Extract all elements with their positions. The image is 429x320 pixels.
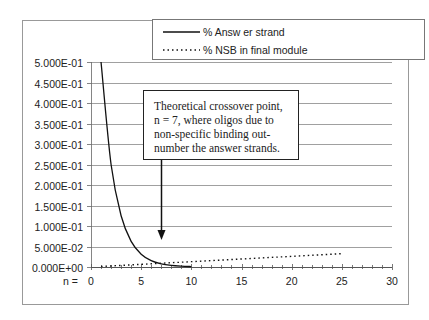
x-tick-label: 15: [236, 275, 248, 287]
x-tick-label: 25: [336, 275, 348, 287]
legend-label-nsb: % NSB in final module: [203, 44, 308, 56]
legend-label-answer: % Answ er strand: [203, 26, 285, 38]
y-tick-label: 2.000E-01: [35, 180, 84, 192]
y-tick-label: 4.500E-01: [35, 78, 84, 90]
y-tick-label: 1.500E-01: [35, 201, 84, 213]
y-tick-label: 2.500E-01: [35, 160, 84, 172]
y-tick-label: 1.000E-01: [35, 221, 84, 233]
annotation-line: non-specific binding out-: [154, 127, 292, 141]
y-tick-label: 3.500E-01: [35, 119, 84, 131]
x-tick-label: 5: [138, 275, 144, 287]
annotation-line: n = 7, where oligos due to: [154, 113, 292, 127]
y-tick-label: 5.000E-02: [35, 242, 84, 254]
y-tick-label: 4.000E-01: [35, 98, 84, 110]
x-tick-label: 20: [286, 275, 298, 287]
y-tick-label: 3.000E-01: [35, 139, 84, 151]
annotation-line: Theoretical crossover point,: [154, 99, 292, 113]
x-tick-label: 0: [88, 275, 94, 287]
y-tick-labels: 0.000E+005.000E-021.000E-011.500E-012.00…: [32, 57, 83, 274]
legend: % Answ er strand % NSB in final module: [153, 20, 425, 60]
y-tick-label: 0.000E+00: [32, 262, 83, 274]
chart: 0.000E+005.000E-021.000E-011.500E-012.00…: [0, 0, 429, 320]
annotation-line: number the answer strands.: [154, 141, 292, 155]
annotation-box: Theoretical crossover point, n = 7, wher…: [143, 90, 299, 160]
x-axis-label: n =: [63, 275, 78, 287]
y-tick-label: 5.000E-01: [35, 57, 84, 69]
x-tick-label: 10: [185, 275, 197, 287]
x-tick-label: 30: [386, 275, 398, 287]
